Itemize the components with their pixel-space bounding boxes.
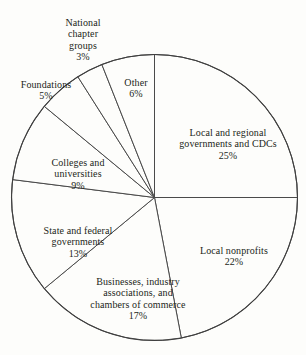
slice-label-other-pct: 6% — [105, 88, 167, 99]
slice-label-local-nonprofits-text: Local nonprofits — [200, 245, 268, 256]
slice-label-local-and-regional-governments-pct: 25% — [168, 150, 288, 161]
slice-label-foundations: Foundations 5% — [4, 68, 88, 113]
slice-label-state-and-federal-governments-text: State and federal governments — [44, 225, 113, 247]
slice-label-national-chapter-groups-pct: 3% — [41, 51, 125, 62]
slice-label-national-chapter-groups: National chapter groups 3% — [41, 6, 125, 73]
slice-label-foundations-text: Foundations — [21, 79, 72, 90]
slice-label-businesses-industry-associations: Businesses, industry associations, and c… — [75, 265, 201, 332]
slice-label-state-and-federal-governments: State and federal governments 13% — [22, 214, 134, 270]
slice-label-local-and-regional-governments-text: Local and regional governments and CDCs — [179, 127, 277, 149]
slice-label-businesses-industry-associations-pct: 17% — [75, 310, 201, 321]
slice-label-colleges-and-universities-text: Colleges and universities — [51, 157, 104, 179]
slice-label-other-text: Other — [124, 77, 147, 88]
slice-label-colleges-and-universities-pct: 9% — [26, 180, 130, 191]
slice-label-foundations-pct: 5% — [4, 90, 88, 101]
slice-label-colleges-and-universities: Colleges and universities 9% — [26, 146, 130, 202]
slice-label-other: Other 6% — [105, 66, 167, 111]
slice-label-businesses-industry-associations-text: Businesses, industry associations, and c… — [90, 276, 185, 309]
slice-label-national-chapter-groups-text: National chapter groups — [65, 17, 100, 50]
slice-label-state-and-federal-governments-pct: 13% — [22, 248, 134, 259]
pie-chart-figure: National chapter groups 3% Foundations 5… — [0, 0, 306, 355]
page-scan-artifact — [0, 348, 306, 355]
slice-label-local-and-regional-governments: Local and regional governments and CDCs … — [168, 116, 288, 172]
